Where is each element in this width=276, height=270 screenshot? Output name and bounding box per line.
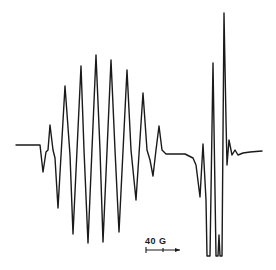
scale-bar xyxy=(146,247,180,253)
epr-spectrum-figure xyxy=(0,0,276,270)
arrow-right-icon xyxy=(175,248,180,252)
spectrum-trace xyxy=(16,13,262,256)
scale-bar-label: 40 G xyxy=(145,236,167,246)
